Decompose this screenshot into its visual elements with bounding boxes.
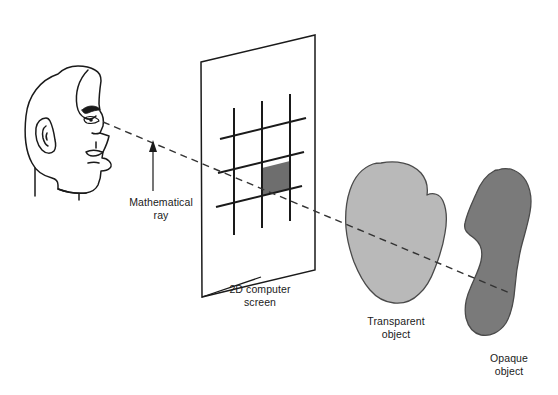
screen-plane-icon (201, 35, 315, 297)
head-profile-icon (25, 66, 111, 200)
label-transparent-object: Transparent object (348, 315, 444, 341)
label-2d-computer-screen: 2D computer screen (213, 283, 307, 309)
ray-tracing-diagram: Mathematical ray 2D computer screen Tran… (0, 0, 558, 395)
label-mathematical-ray: Mathematical ray (118, 196, 204, 222)
label-opaque-object: Opaque object (470, 352, 548, 378)
arrow-up-icon (149, 140, 157, 191)
transparent-object-shape (346, 162, 447, 303)
opaque-object-shape (465, 169, 531, 336)
diagram-canvas (0, 0, 558, 395)
